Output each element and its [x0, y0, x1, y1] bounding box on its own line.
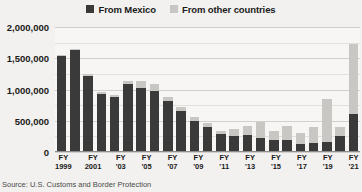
- bar-slot: [347, 27, 360, 152]
- x-axis-tick-fy: FY: [349, 154, 359, 162]
- bar-segment-other-countries: [256, 122, 266, 138]
- stacked-bar: [83, 74, 93, 152]
- bar-series-group: [55, 27, 360, 152]
- stacked-bar: [190, 117, 200, 152]
- bar-segment-other-countries: [150, 84, 160, 91]
- x-axis-tick-fy: FY: [116, 154, 126, 162]
- x-axis-tick: FY'15: [270, 154, 283, 174]
- x-axis-tick-year: '19: [323, 162, 333, 171]
- x-axis-tick: FY'11: [218, 154, 231, 174]
- stacked-bar: [123, 81, 133, 152]
- stacked-bar: [136, 81, 146, 152]
- bar-slot: [294, 27, 307, 152]
- bar-slot: [188, 27, 201, 152]
- x-axis-tick-fy: FY: [142, 154, 152, 162]
- x-axis-tick: [179, 154, 192, 174]
- x-axis-tick: [257, 154, 270, 174]
- bar-slot: [108, 27, 121, 152]
- bar-segment-other-countries: [349, 44, 359, 114]
- axis-baseline: [55, 151, 360, 152]
- x-axis-tick-fy: FY: [271, 154, 281, 162]
- square-swatch-icon: [86, 5, 94, 13]
- bar-segment-mexico: [335, 136, 345, 152]
- bar-segment-mexico: [229, 136, 239, 152]
- bar-segment-mexico: [70, 50, 80, 152]
- x-axis-tick-year: 1999: [55, 162, 72, 171]
- stacked-bar: [229, 129, 239, 152]
- x-axis-tick-fy: FY: [59, 154, 69, 162]
- x-axis-tick: FY'17: [295, 154, 308, 174]
- x-axis-tick: [205, 154, 218, 174]
- stacked-bar: [216, 131, 226, 152]
- bar-slot: [320, 27, 333, 152]
- stacked-bar: [349, 44, 359, 152]
- x-axis-tick-fy: FY: [297, 154, 307, 162]
- y-axis-tick-label: 1,000,000: [7, 85, 49, 94]
- bar-segment-mexico: [176, 111, 186, 152]
- bar-slot: [121, 27, 134, 152]
- legend-label-from-other-countries: From other countries: [182, 5, 276, 14]
- stacked-bar: [176, 107, 186, 152]
- bar-slot: [254, 27, 267, 152]
- legend-item-from-mexico: From Mexico: [86, 5, 156, 14]
- x-axis-tick-year: '17: [297, 162, 307, 171]
- x-axis-tick-year: '05: [142, 162, 152, 171]
- bar-segment-mexico: [216, 134, 226, 152]
- x-axis-tick: [101, 154, 114, 174]
- x-axis-tick: [334, 154, 347, 174]
- bar-segment-mexico: [123, 84, 133, 152]
- bar-slot: [135, 27, 148, 152]
- stacked-bar: [282, 126, 292, 152]
- bar-slot: [68, 27, 81, 152]
- plot-area: [55, 27, 360, 152]
- stacked-bar: [110, 95, 120, 152]
- square-swatch-icon: [170, 5, 178, 13]
- x-axis-tick: [282, 154, 295, 174]
- y-axis-tick-label: 500,000: [15, 116, 49, 125]
- x-axis-tick-fy: FY: [194, 154, 204, 162]
- bar-slot: [241, 27, 254, 152]
- x-axis-tick-year: '21: [349, 162, 359, 171]
- stacked-bar: [57, 55, 67, 152]
- stacked-bar: [296, 133, 306, 152]
- x-axis-tick-year: '13: [245, 162, 255, 171]
- bar-segment-mexico: [83, 76, 93, 153]
- x-axis-tick: [127, 154, 140, 174]
- bar-segment-other-countries: [322, 99, 332, 142]
- bar-segment-mexico: [110, 97, 120, 152]
- bar-segment-other-countries: [282, 126, 292, 140]
- x-axis-labels: FY1999FY2001FY'03FY'05FY'07FY'09FY'11FY'…: [55, 154, 360, 174]
- x-axis-tick-fy: FY: [323, 154, 333, 162]
- y-axis-tick-label: 2,000,000: [7, 23, 49, 32]
- x-axis-tick: FY'05: [140, 154, 153, 174]
- stacked-bar: [335, 127, 345, 152]
- bar-segment-mexico: [136, 88, 146, 152]
- bar-segment-other-countries: [136, 81, 146, 88]
- y-axis-tick-label: 1,500,000: [7, 54, 49, 63]
- y-axis-tick-label: 0: [44, 148, 49, 157]
- legend-item-from-other-countries: From other countries: [170, 5, 276, 14]
- x-axis-tick: FY'09: [192, 154, 205, 174]
- x-axis-tick: [153, 154, 166, 174]
- gridline: [55, 152, 360, 153]
- bar-slot: [82, 27, 95, 152]
- x-axis-tick: [72, 154, 85, 174]
- bar-slot: [55, 27, 68, 152]
- source-note: Source: U.S. Customs and Border Protecti…: [2, 180, 151, 189]
- stacked-bar: [243, 126, 253, 152]
- bar-segment-other-countries: [335, 127, 345, 136]
- x-axis-tick: FY'21: [347, 154, 360, 174]
- stacked-bar: [163, 97, 173, 152]
- y-axis-labels: 0500,0001,000,0001,500,0002,000,000: [0, 27, 52, 152]
- bar-segment-mexico: [150, 91, 160, 152]
- bar-segment-mexico: [349, 114, 359, 152]
- bar-slot: [174, 27, 187, 152]
- bar-segment-mexico: [203, 127, 213, 152]
- bar-segment-mexico: [243, 135, 253, 152]
- bar-slot: [214, 27, 227, 152]
- stacked-bar: [256, 122, 266, 153]
- x-axis-tick: FY1999: [55, 154, 72, 174]
- bar-segment-mexico: [163, 101, 173, 152]
- stacked-bar: [309, 127, 319, 152]
- x-axis-tick-fy: FY: [88, 154, 98, 162]
